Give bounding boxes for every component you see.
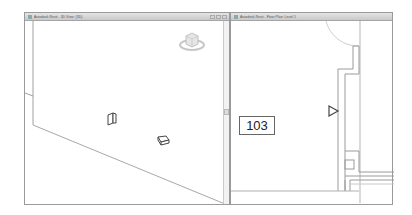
app-icon	[28, 15, 32, 19]
floor-plan-window[interactable]: Autodesk Revit - Floor Plan: Level 1 103	[230, 12, 393, 205]
floor-plan-title: Autodesk Revit - Floor Plan: Level 1	[240, 15, 296, 19]
close-button[interactable]	[222, 15, 227, 19]
3d-view-canvas[interactable]	[25, 21, 229, 204]
floor-plan-titlebar[interactable]: Autodesk Revit - Floor Plan: Level 1	[231, 13, 392, 21]
restore-button[interactable]	[216, 15, 221, 19]
floor-plan-canvas[interactable]: 103	[231, 21, 392, 204]
scrollbar-thumb[interactable]	[224, 109, 229, 115]
room-tag[interactable]: 103	[239, 116, 275, 135]
viewcube-icon[interactable]	[177, 27, 207, 53]
vertical-scrollbar[interactable]	[223, 21, 229, 204]
window-controls	[210, 15, 229, 19]
minimize-button[interactable]	[210, 15, 215, 19]
door-object-icon[interactable]	[106, 112, 118, 126]
3d-view-title: Autodesk Revit - 3D View: {3D}	[34, 15, 82, 19]
door-object-icon[interactable]	[157, 134, 171, 146]
floor-plan-drawing	[231, 21, 394, 206]
section-arrow-icon[interactable]	[328, 105, 340, 117]
app-icon	[234, 15, 238, 19]
3d-view-window[interactable]: Autodesk Revit - 3D View: {3D}	[24, 12, 230, 205]
3d-view-titlebar[interactable]: Autodesk Revit - 3D View: {3D}	[25, 13, 229, 21]
